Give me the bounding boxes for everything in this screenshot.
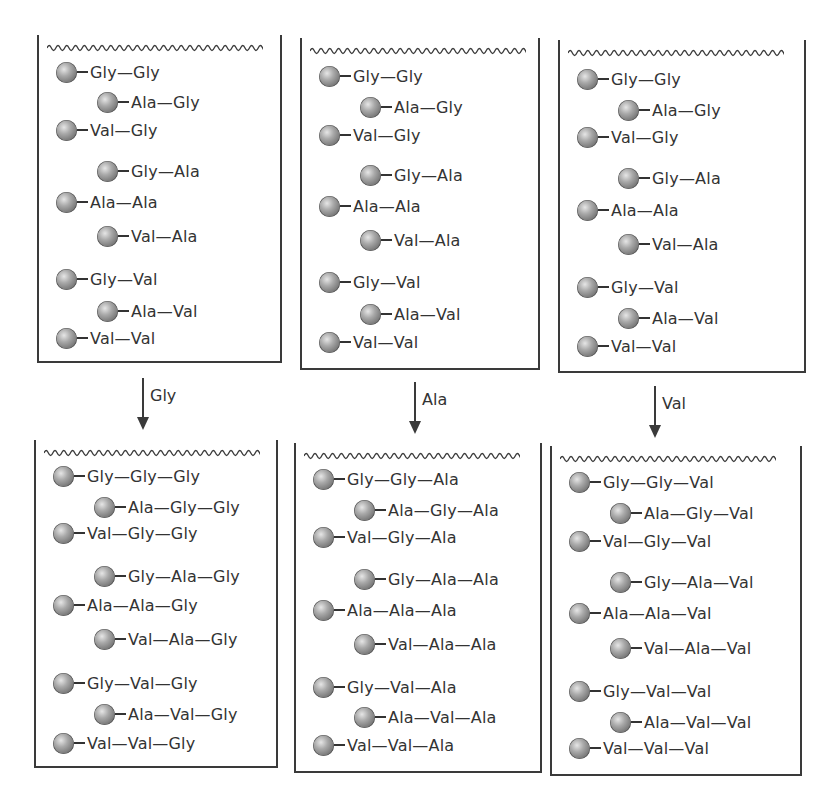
peptide-bead: Gly—Ala—Gly [94,564,240,588]
peptide-bead: Ala—Ala—Gly [53,593,198,617]
peptide-bead: Gly—Val [577,275,679,299]
solvent-surface-wave [560,453,776,465]
resin-bead-icon [577,127,598,148]
resin-bead-icon [360,230,381,251]
peptide-bead: Ala—Gly [360,95,463,119]
peptide-bead: Ala—Gly—Gly [94,495,240,519]
peptide-bead: Val—Ala [618,232,719,256]
peptide-bead: Val—Gly—Val [569,529,711,553]
resin-bead-icon [569,681,590,702]
peptide-bead: Val—Ala—Ala [354,632,497,656]
resin-bead-icon [618,168,639,189]
peptide-bead: Ala—Val [97,299,198,323]
resin-bead-icon [313,469,334,490]
peptide-bead: Val—Val—Ala [313,733,454,757]
peptide-bead: Gly—Gly—Val [569,470,714,494]
resin-bead-icon [360,165,381,186]
resin-bead-icon [319,196,340,217]
resin-bead-icon [56,120,77,141]
vessel-3-before: Gly—Gly Ala—Gly Val—Gly Gly—Ala Ala—Ala … [558,40,806,373]
resin-bead-icon [618,100,639,121]
resin-bead-icon [94,566,115,587]
resin-bead-icon [569,531,590,552]
vessel-2-before: Gly—Gly Ala—Gly Val—Gly Gly—Ala Ala—Ala … [300,38,540,370]
resin-bead-icon [319,125,340,146]
peptide-bead: Ala—Gly [97,90,200,114]
vessel-2-after: Gly—Gly—Ala Ala—Gly—Ala Val—Gly—Ala Gly—… [294,443,542,773]
resin-bead-icon [56,328,77,349]
resin-bead-icon [610,503,631,524]
solvent-surface-wave [44,447,260,459]
resin-bead-icon [610,572,631,593]
resin-bead-icon [618,308,639,329]
peptide-bead: Val—Val—Val [569,736,709,760]
resin-bead-icon [94,704,115,725]
peptide-bead: Ala—Ala [56,190,158,214]
resin-bead-icon [360,304,381,325]
vessel-1-after: Gly—Gly—Gly Ala—Gly—Gly Val—Gly—Gly Gly—… [34,440,278,768]
resin-bead-icon [53,595,74,616]
peptide-bead: Val—Val—Gly [53,731,195,755]
peptide-bead: Gly—Gly—Ala [313,467,459,491]
resin-bead-icon [577,69,598,90]
arrow-label-ala: Ala [422,390,447,409]
peptide-bead: Gly—Val—Val [569,679,711,703]
peptide-bead: Gly—Ala [618,166,721,190]
arrow-down-icon [414,382,416,432]
resin-bead-icon [97,301,118,322]
peptide-bead: Val—Ala—Val [610,636,751,660]
resin-bead-icon [94,629,115,650]
peptide-bead: Val—Val [56,326,155,350]
resin-bead-icon [319,332,340,353]
resin-bead-icon [313,677,334,698]
peptide-bead: Gly—Ala—Ala [354,567,499,591]
resin-bead-icon [319,66,340,87]
peptide-bead: Val—Val [319,330,418,354]
peptide-bead: Val—Val [577,334,676,358]
resin-bead-icon [610,712,631,733]
resin-bead-icon [53,673,74,694]
resin-bead-icon [577,277,598,298]
resin-bead-icon [56,192,77,213]
resin-bead-icon [313,527,334,548]
peptide-bead: Ala—Ala [319,194,421,218]
peptide-bead: Gly—Val [56,267,158,291]
arrow-label-val: Val [662,394,686,413]
peptide-bead: Ala—Ala—Ala [313,598,457,622]
peptide-bead: Gly—Ala—Val [610,570,754,594]
peptide-bead: Val—Gly—Ala [313,525,457,549]
solvent-surface-wave [304,450,520,462]
resin-bead-icon [97,161,118,182]
arrow-down-icon [654,386,656,436]
solvent-surface-wave [310,45,526,57]
resin-bead-icon [354,500,375,521]
peptide-bead: Val—Gly—Gly [53,521,198,545]
peptide-bead: Ala—Gly [618,98,721,122]
peptide-bead: Gly—Gly [56,60,160,84]
resin-bead-icon [569,472,590,493]
peptide-bead: Val—Ala [360,228,461,252]
peptide-bead: Gly—Val—Gly [53,671,198,695]
resin-bead-icon [53,733,74,754]
vessel-3-after: Gly—Gly—Val Ala—Gly—Val Val—Gly—Val Gly—… [550,446,802,776]
peptide-bead: Val—Gly [56,118,158,142]
resin-bead-icon [313,735,334,756]
peptide-bead: Gly—Gly [319,64,423,88]
peptide-bead: Ala—Ala [577,198,679,222]
resin-bead-icon [56,62,77,83]
resin-bead-icon [577,336,598,357]
resin-bead-icon [354,569,375,590]
resin-bead-icon [569,603,590,624]
resin-bead-icon [53,523,74,544]
peptide-bead: Ala—Gly—Val [610,501,754,525]
peptide-bead: Gly—Val [319,270,421,294]
solvent-surface-wave [568,47,784,59]
resin-bead-icon [354,634,375,655]
peptide-bead: Ala—Val [618,306,719,330]
resin-bead-icon [360,97,381,118]
peptide-bead: Gly—Gly—Gly [53,464,200,488]
peptide-bead: Val—Ala [97,224,198,248]
peptide-bead: Ala—Val—Val [610,710,751,734]
peptide-bead: Gly—Gly [577,67,681,91]
peptide-bead: Gly—Ala [360,163,463,187]
